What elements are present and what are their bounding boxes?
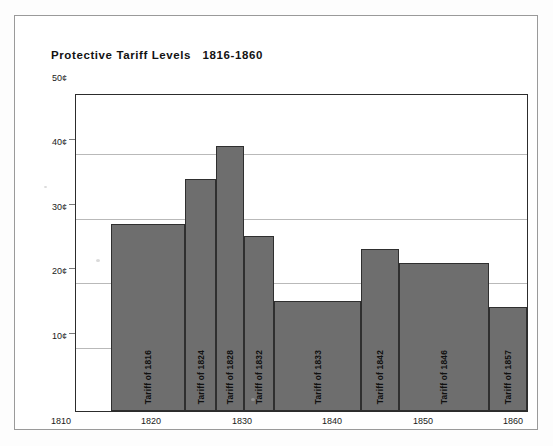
y-tick-label-30: 30¢ — [15, 202, 67, 212]
bar-tariff-1857[interactable]: Tariff of 1857 — [489, 307, 527, 411]
gridline-30 — [76, 219, 527, 220]
y-tick-label-10: 10¢ — [15, 331, 67, 341]
scanned-page: Protective Tariff Levels 1816-1860 50¢ 4… — [0, 0, 553, 446]
bar-label-tariff-1842: Tariff of 1842 — [375, 350, 385, 404]
scan-speck — [44, 186, 47, 188]
chart-title: Protective Tariff Levels 1816-1860 — [51, 49, 263, 61]
bar-label-tariff-1846: Tariff of 1846 — [439, 350, 449, 404]
bar-tariff-1842[interactable]: Tariff of 1842 — [361, 249, 399, 411]
bar-tariff-1828[interactable]: Tariff of 1828 — [216, 146, 244, 411]
bar-label-tariff-1824: Tariff of 1824 — [196, 350, 206, 404]
bar-label-tariff-1832: Tariff of 1832 — [254, 350, 264, 404]
x-tick-label-1850: 1850 — [403, 416, 443, 426]
scan-speck — [251, 398, 255, 401]
x-tick-label-1820: 1820 — [131, 416, 171, 426]
bar-tariff-1824[interactable]: Tariff of 1824 — [185, 179, 216, 411]
bar-tariff-1816[interactable]: Tariff of 1816 — [111, 224, 185, 411]
y-tick-label-40: 40¢ — [15, 137, 67, 147]
y-tick-label-20: 20¢ — [15, 266, 67, 276]
bar-tariff-1846[interactable]: Tariff of 1846 — [399, 263, 489, 411]
bar-label-tariff-1833: Tariff of 1833 — [313, 350, 323, 404]
bar-tariff-1833[interactable]: Tariff of 1833 — [274, 301, 361, 411]
bar-label-tariff-1828: Tariff of 1828 — [225, 350, 235, 404]
plot-area: Tariff of 1816 Tariff of 1824 Tariff of … — [75, 94, 528, 412]
bar-label-tariff-1857: Tariff of 1857 — [503, 350, 513, 404]
scan-speck — [96, 259, 100, 262]
x-tick-label-1810: 1810 — [41, 416, 81, 426]
bar-tariff-1832[interactable]: Tariff of 1832 — [244, 236, 274, 411]
x-tick-label-1840: 1840 — [312, 416, 352, 426]
gridline-40 — [76, 154, 527, 155]
x-tick-label-1830: 1830 — [222, 416, 262, 426]
bar-label-tariff-1816: Tariff of 1816 — [143, 350, 153, 404]
x-tick-label-1860: 1860 — [493, 416, 533, 426]
y-tick-label-50: 50¢ — [15, 73, 67, 83]
figure-frame: Protective Tariff Levels 1816-1860 50¢ 4… — [14, 15, 538, 430]
